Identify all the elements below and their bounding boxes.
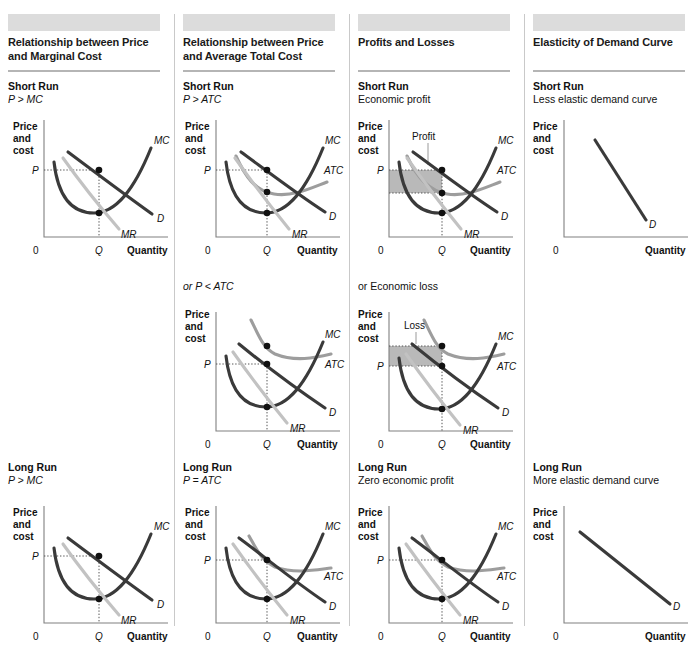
mc-label: MC [154,521,170,532]
equilibrium-point-mr-mc [439,406,446,413]
section-label-middle: or P < ATC [183,280,348,293]
origin-label: 0 [33,245,39,256]
price-label: P [32,551,39,562]
demand-label: D [649,219,656,230]
graph-c3-long-run: Price and cost MC ATC MR D P Q 0 Quanti [350,498,525,648]
column-title: Relationship between Price and Marginal … [8,36,168,63]
section-label-long-run: Long Run P = ATC [183,461,348,486]
section-condition: or P < ATC [183,280,348,293]
equilibrium-point-price [439,167,446,174]
quantity-label: Q [438,245,446,256]
y-axis-label-line1: Price [533,121,558,132]
x-axis-label: Quantity [645,631,686,642]
atc-label: ATC [323,571,344,582]
x-axis-label: Quantity [470,245,511,256]
section-label-middle: or Economic loss [358,280,523,293]
mr-label: MR [290,615,306,626]
origin-label: 0 [205,245,211,256]
y-axis-label-line3: cost [358,531,379,542]
y-axis-label-line2: and [358,321,376,332]
graph-c4-short-run: Price and cost D 0 Quantity [525,112,700,262]
section-heading: Long Run [358,461,523,474]
graph-c1-short-run: Price and cost MC MR D P Q 0 Quantity [0,112,175,262]
section-heading: Long Run [8,461,173,474]
price-label: P [204,359,211,370]
origin-label: 0 [33,631,39,642]
graph-c4-long-run: Price and cost D 0 Quantity [525,498,700,648]
quantity-label: Q [263,245,271,256]
mr-label: MR [463,615,479,626]
demand-label: D [329,601,336,612]
section-condition: P = ATC [183,474,348,487]
y-axis-label-line3: cost [185,333,206,344]
graph-svg: Price and cost D 0 Quantity [525,498,700,648]
equilibrium-point-mr-mc [96,596,103,603]
profit-annotation: Profit [412,131,436,142]
column-price-average-total-cost: Relationship between Price and Average T… [175,0,350,654]
x-axis-label: Quantity [297,245,338,256]
section-condition: P > ATC [183,93,348,106]
y-axis-label-line3: cost [533,531,554,542]
section-heading: Long Run [533,461,698,474]
axes [564,506,688,623]
equilibrium-point-atc [439,190,446,197]
demand-label: D [502,601,509,612]
quantity-label: Q [95,245,103,256]
x-axis-label: Quantity [470,631,511,642]
section-label-short-run: Short Run Less elastic demand curve [533,80,698,105]
y-axis-label-line1: Price [533,507,558,518]
atc-label: ATC [324,359,345,370]
column-header-band [8,14,160,31]
equilibrium-point-price [96,553,103,560]
demand-label: D [673,601,680,612]
header-rule [8,70,160,72]
equilibrium-point-price [264,361,271,368]
price-label: P [204,165,211,176]
y-axis-label-line1: Price [358,121,383,132]
y-axis-label-line2: and [185,321,203,332]
mc-label: MC [325,135,341,146]
demand-curve [580,532,670,604]
y-axis-label-line1: Price [358,309,383,320]
y-axis-label-line1: Price [185,121,210,132]
x-axis-label: Quantity [127,631,168,642]
graph-svg: Price and cost Loss MC ATC MR [350,300,525,460]
y-axis-label-line2: and [533,519,551,530]
y-axis-label-line3: cost [533,145,554,156]
equilibrium-point-mr-mc [264,404,271,411]
y-axis-label-line1: Price [13,121,38,132]
section-heading: Short Run [533,80,698,93]
section-heading: Short Run [183,80,348,93]
section-condition: P > MC [8,474,173,487]
price-label: P [204,555,211,566]
y-axis-label-line3: cost [358,145,379,156]
section-label-short-run: Short Run Economic profit [358,80,523,105]
origin-label: 0 [378,439,384,450]
column-elasticity-demand: Elasticity of Demand Curve Short Run Les… [525,0,700,654]
origin-label: 0 [205,631,211,642]
x-axis-label: Quantity [470,439,511,450]
mr-label: MR [290,423,306,434]
equilibrium-point-price [264,167,271,174]
equilibrium-point-price [264,557,271,564]
section-label-long-run: Long Run Zero economic profit [358,461,523,486]
price-label: P [32,165,39,176]
mc-label: MC [154,135,170,146]
equilibrium-point-price [439,363,446,370]
atc-label: ATC [496,361,517,372]
column-header-band [358,14,510,31]
graph-c2-long-run: Price and cost MC ATC MR D P Q 0 Quanti [175,498,350,648]
y-axis-label-line1: Price [185,507,210,518]
mr-label: MR [463,425,479,436]
graph-c3-loss: Price and cost Loss MC ATC MR [350,300,525,450]
mc-curve [226,148,323,213]
axes [564,120,688,237]
price-label: P [377,555,384,566]
quantity-label: Q [95,631,103,642]
graph-svg: Price and cost MC ATC MR D P Q 0 [175,300,350,460]
equilibrium-point-atc [439,343,446,350]
demand-label: D [157,599,164,610]
graph-svg: Price and cost MC ATC MR D P Q 0 Quanti [175,498,350,648]
y-axis-label-line3: cost [185,531,206,542]
y-axis-label-line1: Price [185,309,210,320]
